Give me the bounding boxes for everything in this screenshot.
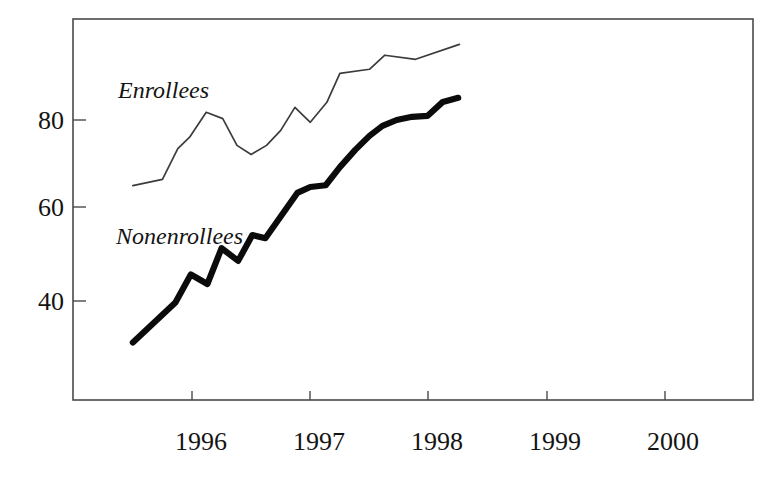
- chart-figure: 80 60 40 1996 1997 1998 1999 2000 Enrol: [0, 0, 784, 482]
- annotation-enrollees: Enrollees: [117, 77, 209, 103]
- x-axis-ticks: [192, 391, 665, 400]
- x-axis-labels: 1996 1997 1998 1999 2000: [175, 427, 699, 456]
- x-tick-label-1999: 1999: [529, 427, 581, 456]
- line-chart: 80 60 40 1996 1997 1998 1999 2000 Enrol: [0, 0, 784, 482]
- annotation-nonenrollees: Nonenrollees: [115, 223, 243, 249]
- x-tick-label-1998: 1998: [411, 427, 463, 456]
- series-line-nonenrollees: [133, 98, 458, 343]
- x-tick-label-1996: 1996: [175, 427, 227, 456]
- x-tick-label-1997: 1997: [293, 427, 345, 456]
- y-tick-label-60: 60: [38, 193, 64, 222]
- y-axis-labels: 80 60 40: [38, 106, 64, 316]
- y-tick-label-80: 80: [38, 106, 64, 135]
- series-annotations: Enrollees Nonenrollees: [115, 77, 243, 249]
- x-tick-label-2000: 2000: [647, 427, 699, 456]
- y-tick-label-40: 40: [38, 287, 64, 316]
- y-axis-ticks: [73, 120, 86, 301]
